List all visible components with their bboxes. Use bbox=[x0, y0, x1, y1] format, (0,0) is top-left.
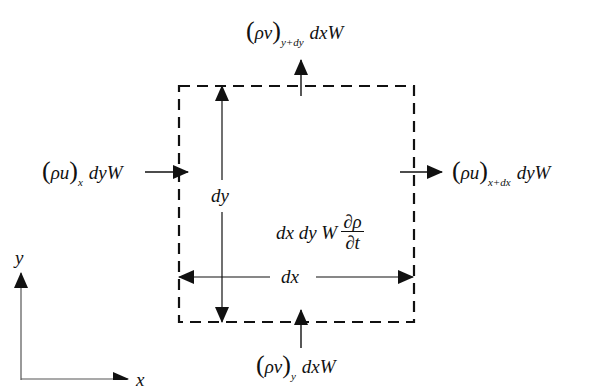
accumulation-term: dx dy W∂ρ∂t bbox=[276, 212, 364, 252]
partial-derivative-fraction: ∂ρ∂t bbox=[341, 212, 364, 252]
right-flux-label: (ρu)x+dxdyW bbox=[452, 158, 550, 184]
dy-label: dy bbox=[211, 186, 229, 205]
dx-label: dx bbox=[281, 267, 299, 286]
bottom-flux-label: (ρv)ydxW bbox=[256, 352, 336, 378]
top-flux-label: (ρv)y+dydxW bbox=[246, 18, 343, 44]
left-flux-label: (ρu)xdyW bbox=[42, 158, 123, 184]
x-axis-label: x bbox=[136, 370, 144, 389]
y-axis-label: y bbox=[15, 248, 23, 267]
